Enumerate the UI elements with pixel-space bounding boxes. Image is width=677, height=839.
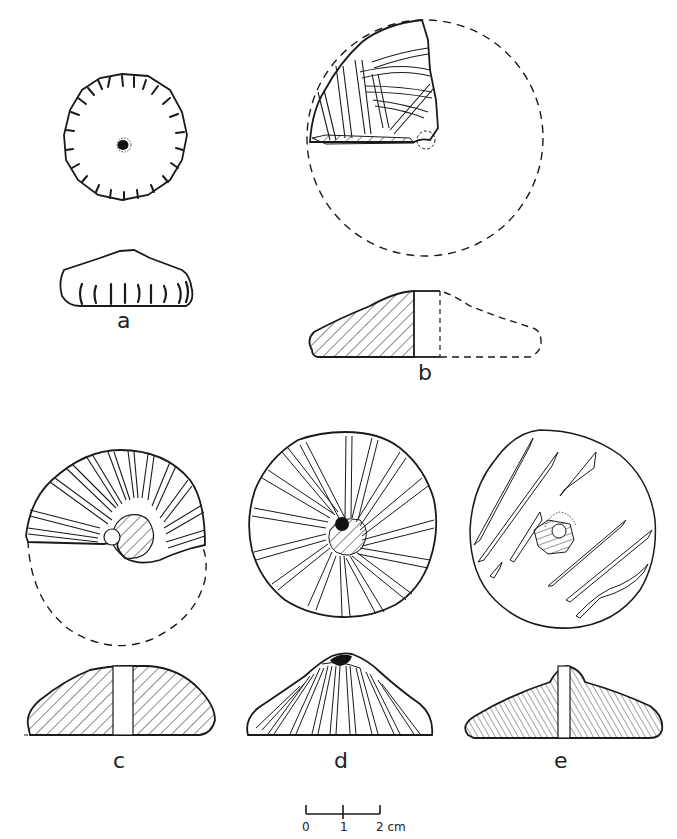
object-a-section	[60, 250, 192, 306]
label-d: d	[334, 750, 348, 772]
object-e-plan	[470, 430, 655, 628]
object-b-plan	[307, 20, 543, 256]
object-c-section	[24, 666, 215, 735]
label-c: c	[113, 750, 125, 772]
object-b-section	[309, 291, 541, 357]
object-d-plan	[249, 432, 436, 617]
scale-bar	[306, 805, 380, 819]
label-b: b	[418, 362, 432, 384]
object-a-plan	[64, 74, 187, 200]
scale-tick-2-label: 2 cm	[376, 821, 406, 833]
object-e-section	[465, 666, 662, 738]
object-d-section	[247, 653, 432, 735]
label-a: a	[117, 310, 130, 332]
scale-tick-1: 1	[340, 821, 348, 833]
illustration-plate	[0, 0, 677, 839]
object-c-plan	[26, 450, 206, 646]
scale-tick-0: 0	[302, 821, 310, 833]
label-e: e	[554, 750, 568, 772]
